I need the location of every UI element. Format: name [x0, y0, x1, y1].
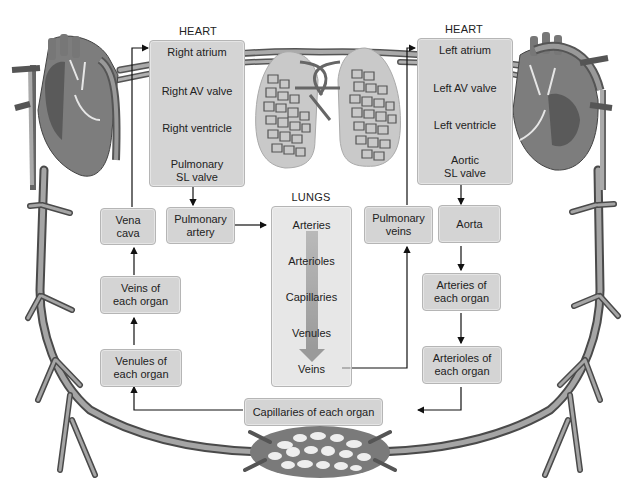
vena-cava-label-2: cava: [116, 227, 139, 240]
capillaries-of-each-organ-box: Capillaries of each organ: [244, 398, 383, 426]
pulmonary-veins-label-2: veins: [386, 225, 412, 238]
arteries-of-each-organ-label-2: each organ: [434, 292, 489, 305]
arteries-of-each-organ-box: Arteries of each organ: [422, 273, 501, 311]
pulmonary-veins-box: Pulmonary veins: [364, 206, 433, 244]
arterioles-of-each-organ-label-2: each organ: [434, 365, 489, 378]
left-av-valve-label: Left AV valve: [433, 82, 496, 95]
left-heart-heading: HEART: [416, 23, 512, 35]
left-ventricle-label: Left ventricle: [434, 119, 496, 132]
lungs-box: Arteries Arterioles Capillaries Venules …: [271, 206, 352, 387]
aortic-sl-valve-label-2: SL valve: [444, 167, 486, 180]
lung-veins-label: Veins: [272, 363, 351, 376]
lungs-illustration: [256, 48, 401, 168]
right-side-heart-illustration: [12, 34, 118, 190]
vena-cava-label-1: Vena: [115, 214, 140, 227]
lung-venules-label: Venules: [272, 327, 351, 340]
pulmonary-sl-valve-label-2: SL valve: [176, 171, 218, 184]
capillary-bed-illustration: [245, 426, 395, 478]
left-heart-box: Left atrium Left AV valve Left ventricle…: [417, 38, 513, 185]
right-heart-box: Right atrium Right AV valve Right ventri…: [149, 40, 245, 187]
veins-of-each-organ-label-2: each organ: [113, 295, 168, 308]
right-heart-heading: HEART: [150, 25, 246, 37]
pulmonary-artery-label-2: artery: [186, 226, 214, 239]
aortic-sl-valve-label-1: Aortic: [451, 154, 479, 167]
aorta-box: Aorta: [438, 205, 501, 243]
lung-capillaries-label: Capillaries: [272, 291, 351, 304]
arterioles-of-each-organ-box: Arterioles of each organ: [422, 346, 502, 384]
aorta-label: Aorta: [456, 218, 482, 231]
lungs-heading: LUNGS: [270, 191, 352, 203]
right-ventricle-label: Right ventricle: [162, 122, 232, 135]
lung-arteries-label: Arteries: [272, 219, 351, 232]
pulmonary-veins-label-1: Pulmonary: [372, 212, 425, 225]
veins-of-each-organ-label-1: Veins of: [121, 282, 160, 295]
pulmonary-artery-box: Pulmonary artery: [166, 207, 235, 244]
right-atrium-label: Right atrium: [167, 46, 226, 59]
veins-of-each-organ-box: Veins of each organ: [100, 276, 181, 314]
venules-of-each-organ-label-1: Venules of: [115, 355, 166, 368]
venules-of-each-organ-box: Venules of each organ: [100, 349, 182, 387]
arteries-of-each-organ-label-1: Arteries of: [436, 279, 486, 292]
capillaries-of-each-organ-label: Capillaries of each organ: [253, 406, 375, 419]
vena-cava-box: Vena cava: [100, 208, 156, 245]
pulmonary-artery-label-1: Pulmonary: [174, 213, 227, 226]
left-atrium-label: Left atrium: [439, 44, 491, 57]
venules-of-each-organ-label-2: each organ: [113, 368, 168, 381]
right-av-valve-label: Right AV valve: [162, 85, 233, 98]
arterioles-of-each-organ-label-1: Arterioles of: [433, 352, 492, 365]
pulmonary-sl-valve-label-1: Pulmonary: [171, 158, 224, 171]
lung-arterioles-label: Arterioles: [272, 255, 351, 268]
